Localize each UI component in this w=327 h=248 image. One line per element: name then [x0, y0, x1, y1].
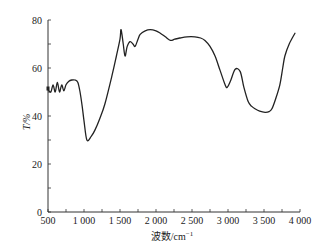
- x-tick-label: 1 000: [73, 215, 96, 226]
- transmittance-curve: [48, 30, 295, 141]
- y-tick-label: 40: [32, 111, 42, 122]
- x-tick-label: 2 000: [145, 215, 168, 226]
- x-tick-label: 1 500: [109, 215, 132, 226]
- y-tick-label: 20: [32, 159, 42, 170]
- x-axis-title: 波数/cm−1: [151, 230, 194, 242]
- start-marker: [47, 87, 50, 91]
- x-axis-title-sup: −1: [186, 230, 194, 238]
- x-axis-title-main: 波数/cm: [151, 230, 186, 242]
- y-tick-label: 60: [32, 63, 42, 74]
- y-axis-title: T/%: [21, 114, 32, 131]
- y-tick-label: 80: [32, 15, 42, 26]
- x-tick-label: 3 500: [253, 215, 276, 226]
- x-tick-label: 3 000: [217, 215, 240, 226]
- axes: 020406080 5001 0001 5002 0002 5003 0003 …: [32, 15, 311, 227]
- chart: 020406080 5001 0001 5002 0002 5003 0003 …: [0, 0, 327, 248]
- x-tick-label: 2 500: [181, 215, 204, 226]
- x-tick-label: 500: [41, 215, 56, 226]
- x-tick-label: 4 000: [289, 215, 312, 226]
